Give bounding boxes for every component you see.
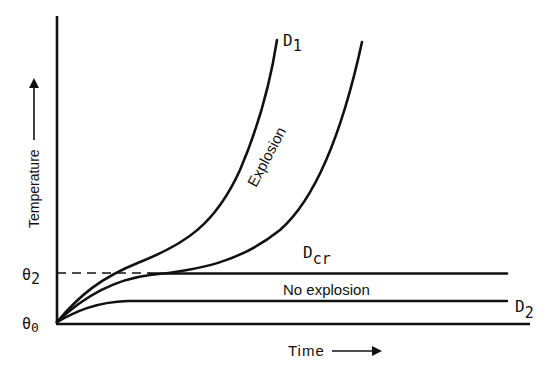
theta0-label: θ0 [22,315,39,335]
temperature-label: Temperature [26,149,42,228]
dcr-label: Dcr [303,243,331,268]
theta2-label: θ2 [22,266,40,288]
curve-d2 [57,301,507,322]
time-label: Time [288,342,325,359]
d2-label: D2 [515,297,534,322]
explosion-diagram: θ2 θ0 Temperature Time D1 Dcr D2 Explosi… [0,0,551,377]
no-explosion-region-label: No explosion [283,281,370,298]
explosion-region-label: Explosion [244,124,290,189]
y-axis-title: Temperature [26,82,42,228]
d1-label: D1 [283,31,302,55]
x-axis-title: Time [288,342,378,359]
